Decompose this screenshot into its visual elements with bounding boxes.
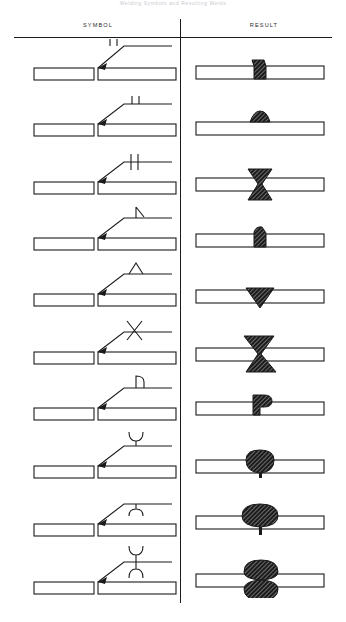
welding-symbols-chart: Welding Symbols and Resulting Welds SYMB… [0,0,346,622]
result-cell [182,486,342,542]
document-title: Welding Symbols and Resulting Welds [0,0,346,7]
table-row [0,38,346,94]
symbol-cell [14,262,180,318]
table-row [0,262,346,318]
column-header-symbol: SYMBOL [18,22,178,28]
result-cell [182,262,342,318]
symbol-cell [14,94,180,150]
rows-container [0,38,346,598]
symbol-cell [14,486,180,542]
column-header-result: RESULT [190,22,338,28]
result-cell [182,150,342,206]
table-row [0,486,346,542]
result-cell [182,318,342,374]
symbol-cell [14,150,180,206]
table-row [0,374,346,430]
table-row [0,94,346,150]
result-cell [182,374,342,430]
result-cell [182,430,342,486]
symbol-cell [14,374,180,430]
result-cell [182,542,342,598]
table-row [0,150,346,206]
result-cell [182,206,342,262]
result-cell [182,94,342,150]
symbol-cell [14,318,180,374]
table-row [0,318,346,374]
table-row [0,430,346,486]
symbol-cell [14,38,180,94]
table-row [0,542,346,598]
table-row [0,206,346,262]
symbol-cell [14,206,180,262]
symbol-cell [14,542,180,598]
symbol-cell [14,430,180,486]
result-cell [182,38,342,94]
